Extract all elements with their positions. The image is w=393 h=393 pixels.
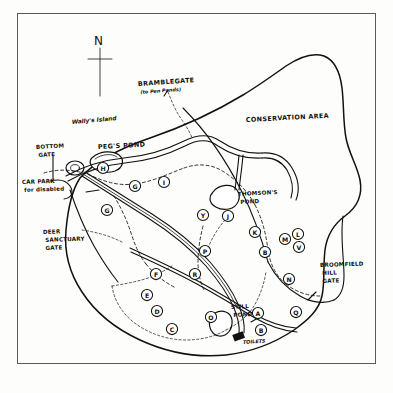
map-label-text: TOILETS [243, 337, 266, 345]
map-label-text: BOTTOM [36, 143, 65, 150]
map-label-layer: BRAMBLEGATE(to Pen Ponds)CONSERVATION AR… [22, 76, 364, 345]
marker-letter: Q [293, 309, 298, 316]
map-marker-c-18[interactable]: C [166, 323, 177, 334]
marker-letter: H [100, 165, 105, 172]
marker-letter: R [193, 271, 198, 278]
marker-letter: M [282, 236, 288, 243]
map-label-deer-sanctuary: DEERSANCTUARYGATE [43, 228, 86, 251]
map-marker-r-14[interactable]: R [189, 268, 200, 279]
map-label-text: PEG'S POND [98, 141, 146, 151]
marker-letter: C [170, 326, 175, 333]
marker-letter: V [297, 244, 302, 251]
marker-letter: N [286, 276, 291, 283]
map-marker-b-21[interactable]: B [255, 324, 266, 335]
map-label-text: Wally's Island [72, 115, 118, 126]
marker-letter: P [203, 248, 208, 255]
map-marker-a-20[interactable]: A [252, 307, 263, 318]
map-label-text: THOMSON'S [238, 189, 278, 197]
wallys-island-shape [66, 161, 84, 175]
map-marker-h-0[interactable]: H [97, 162, 108, 173]
marker-letter: K [253, 229, 258, 236]
marker-letter: B [259, 327, 264, 334]
marker-letter: E [145, 292, 149, 299]
map-label-bramblegate: BRAMBLEGATE(to Pen Ponds) [138, 76, 196, 95]
map-label-text: DEER [43, 228, 61, 235]
map-marker-m-8[interactable]: M [279, 233, 290, 244]
map-label-subtext: SANCTUARY [45, 236, 85, 243]
marker-letter: G [132, 183, 137, 190]
map-label-wallys-island: Wally's Island [72, 115, 118, 126]
map-label-conservation: CONSERVATION AREA [246, 112, 330, 124]
marker-letter: B [263, 249, 268, 256]
map-marker-q-13[interactable]: Q [290, 306, 301, 317]
map-label-subtext: GATE [45, 244, 62, 251]
map-label-toilets: TOILETS [243, 337, 266, 345]
map-label-subtext: GATE [322, 277, 339, 284]
map-container: N BRAMBLEGATE(to Pen Ponds)CONSERVATION … [0, 0, 393, 393]
map-marker-y-4[interactable]: Y [197, 209, 208, 220]
north-arrow-label: N [94, 34, 103, 48]
marker-letter: A [256, 310, 261, 317]
map-marker-d-17[interactable]: D [151, 305, 162, 316]
map-label-bottom-gate: BOTTOMGATE [36, 143, 65, 158]
map-label-text: CONSERVATION AREA [246, 112, 330, 124]
map-label-subtext: POND [233, 311, 252, 318]
conservation-area-boundary [183, 108, 344, 302]
map-label-subtext: for disabled [24, 186, 64, 193]
map-marker-g-1[interactable]: G [129, 180, 140, 191]
map-marker-k-6[interactable]: K [249, 226, 260, 237]
marker-letter: D [154, 308, 159, 315]
map-label-pegs-pond: PEG'S POND [98, 141, 146, 151]
north-arrow [88, 48, 112, 96]
hand-drawn-park-map: N BRAMBLEGATE(to Pen Ponds)CONSERVATION … [0, 0, 393, 393]
map-label-text: BROOMFIELD [320, 260, 364, 268]
map-marker-v-10[interactable]: V [293, 241, 304, 252]
map-label-subtext: POND [240, 198, 259, 205]
map-label-text: CAR PARK [22, 178, 56, 185]
map-label-broomfield: BROOMFIELDHILLGATE [320, 260, 364, 284]
map-marker-l-9[interactable]: L [292, 228, 303, 239]
map-marker-b-7[interactable]: B [259, 246, 270, 257]
map-marker-i-3[interactable]: I [158, 176, 169, 187]
map-marker-g-2[interactable]: G [101, 204, 112, 215]
marker-letter: F [154, 271, 158, 278]
marker-letter: L [296, 231, 300, 238]
map-marker-e-16[interactable]: E [141, 289, 152, 300]
map-label-text: STILL [231, 303, 250, 310]
marker-letter: G [104, 207, 109, 214]
map-marker-f-15[interactable]: F [150, 268, 161, 279]
map-marker-j-5[interactable]: J [222, 210, 233, 221]
marker-letter: I [163, 179, 165, 186]
dashed-trails [44, 92, 320, 340]
map-label-subtext: GATE [38, 151, 55, 158]
map-marker-n-12[interactable]: N [283, 273, 294, 284]
marker-letter: O [208, 314, 213, 321]
marker-letter: J [226, 213, 229, 221]
map-marker-p-11[interactable]: P [199, 245, 210, 256]
marker-letter: Y [200, 212, 206, 219]
map-label-subtext: HILL [322, 269, 337, 276]
map-marker-o-19[interactable]: O [205, 311, 216, 322]
path-to-thomsons [235, 155, 243, 190]
